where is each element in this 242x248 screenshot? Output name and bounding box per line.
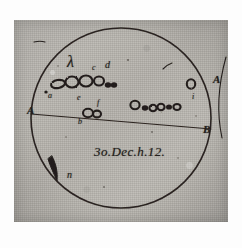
- faint-mark-top-left: [34, 41, 45, 42]
- solar-disk-outline: [31, 28, 211, 208]
- sunspot: [83, 109, 93, 117]
- sunspot-groups: [44, 76, 195, 118]
- sunspot: [166, 104, 172, 109]
- faint-stroke-upper-right: [163, 63, 172, 69]
- right-edge-spot: [187, 79, 195, 89]
- sunspot: [157, 104, 164, 110]
- sunspot: [111, 82, 117, 88]
- freehand-strokes: [34, 41, 226, 181]
- sunspot: [66, 77, 79, 88]
- sunspot: [149, 105, 156, 111]
- paper-speck: [177, 157, 179, 159]
- sunspot: [142, 105, 148, 111]
- edge-curve-right: [219, 57, 226, 138]
- drawing-plate: λcdaefbinABA 3o.Dec.h.12.: [0, 0, 242, 248]
- sunspot: [94, 77, 104, 86]
- paper-speck: [57, 65, 59, 67]
- sunspot: [130, 101, 139, 109]
- sunspot: [105, 82, 111, 88]
- right-chain: [130, 101, 180, 111]
- sunspot: [50, 79, 65, 89]
- paper-speck: [151, 131, 153, 133]
- paper-speck: [195, 115, 197, 117]
- sunspot: [44, 91, 47, 94]
- paper-speck: [65, 136, 67, 138]
- sunspot: [93, 111, 101, 118]
- upper-left-cluster: [44, 76, 117, 94]
- sunspot: [80, 76, 93, 87]
- center-lower-pair: [83, 109, 101, 118]
- diameter-line-AB: [31, 114, 211, 129]
- ink-drawing-layer: [0, 0, 242, 248]
- paper-speck: [103, 186, 105, 188]
- sunspot: [173, 104, 180, 110]
- sunspot: [187, 79, 195, 89]
- paper-speck: [127, 59, 129, 61]
